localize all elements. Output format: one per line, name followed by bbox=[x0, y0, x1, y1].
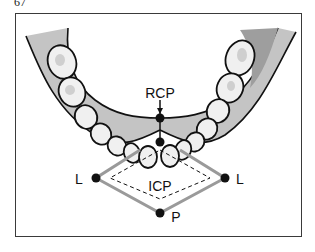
left-lateral-label: L bbox=[75, 171, 83, 187]
rcp-label: RCP bbox=[145, 85, 175, 101]
rcp-point bbox=[156, 114, 165, 123]
icp-point bbox=[156, 138, 165, 147]
right-lateral-label: L bbox=[236, 171, 244, 187]
protrusive-label: P bbox=[171, 209, 180, 225]
protrusive-point bbox=[156, 209, 165, 218]
left-lateral-point bbox=[92, 174, 101, 183]
icp-label: ICP bbox=[148, 178, 171, 194]
rcp-arrow-icon bbox=[157, 108, 163, 114]
mandible-diagram: RCP ICP L L P bbox=[0, 0, 315, 252]
right-lateral-point bbox=[221, 174, 230, 183]
